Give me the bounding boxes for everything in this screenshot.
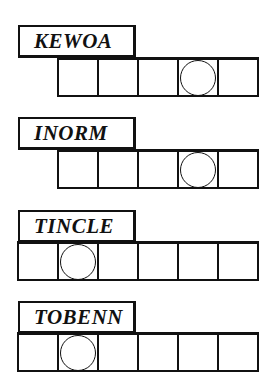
- scrambled-word-box: INORM: [18, 117, 136, 150]
- answer-cell-1[interactable]: [59, 60, 99, 95]
- scrambled-word: KEWOA: [34, 31, 112, 52]
- answer-cell-4[interactable]: [139, 244, 179, 279]
- answer-cell-1[interactable]: [19, 244, 59, 279]
- scrambled-word: TINCLE: [34, 216, 114, 237]
- answer-cell-4-circled[interactable]: [179, 152, 219, 187]
- answer-cell-1[interactable]: [19, 335, 59, 370]
- scrambled-word-box: TINCLE: [18, 210, 136, 243]
- answer-cell-4[interactable]: [139, 335, 179, 370]
- answer-cell-2-circled[interactable]: [59, 335, 99, 370]
- answer-grid: [57, 149, 259, 189]
- answer-cell-3[interactable]: [139, 60, 179, 95]
- answer-cell-6[interactable]: [219, 244, 259, 279]
- answer-cell-6[interactable]: [219, 335, 259, 370]
- circle-marker-icon: [60, 244, 96, 280]
- answer-cell-3[interactable]: [139, 152, 179, 187]
- circle-marker-icon: [60, 335, 96, 371]
- answer-cell-3[interactable]: [99, 244, 139, 279]
- answer-cell-5[interactable]: [219, 60, 259, 95]
- answer-grid: [17, 241, 259, 281]
- scrambled-word-box: TOBENN: [18, 301, 136, 334]
- answer-grid: [17, 332, 259, 372]
- circle-marker-icon: [180, 152, 216, 188]
- circle-marker-icon: [180, 60, 216, 96]
- scrambled-word-box: KEWOA: [18, 25, 136, 58]
- answer-cell-5[interactable]: [179, 244, 219, 279]
- answer-cell-2-circled[interactable]: [59, 244, 99, 279]
- answer-cell-2[interactable]: [99, 60, 139, 95]
- answer-cell-3[interactable]: [99, 335, 139, 370]
- answer-cell-5[interactable]: [179, 335, 219, 370]
- scrambled-word: TOBENN: [34, 307, 123, 328]
- scrambled-word: INORM: [34, 123, 108, 144]
- answer-cell-2[interactable]: [99, 152, 139, 187]
- answer-cell-1[interactable]: [59, 152, 99, 187]
- answer-grid: [57, 57, 259, 97]
- answer-cell-4-circled[interactable]: [179, 60, 219, 95]
- answer-cell-5[interactable]: [219, 152, 259, 187]
